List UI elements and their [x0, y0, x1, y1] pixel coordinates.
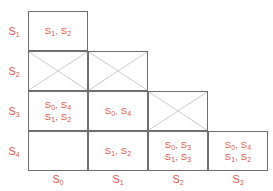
cell-text: S1, S2	[45, 25, 71, 37]
cell-s4-s3: S0, S4S1, S2	[208, 131, 268, 171]
column-label-s2: S2	[148, 174, 208, 185]
cell-s1-s0: S1, S2	[28, 11, 88, 51]
row-label-s3: S3	[2, 106, 26, 117]
row-label-s1-text: S1	[8, 25, 19, 37]
row-label-s1: S1	[2, 26, 26, 37]
cell-s4-s2: S0, S3S1, S3	[148, 131, 208, 171]
row-label-s4: S4	[2, 146, 26, 157]
row-label-s4-text: S4	[8, 145, 19, 157]
staircase-matrix-figure: S1 S2 S3 S4 S0 S1 S2 S3 S1, S2 S0, S4S1,…	[0, 0, 273, 191]
cell-s3-s1: S0, S4	[88, 91, 148, 131]
cell-s2-s1	[88, 51, 148, 91]
cell-s4-s1: S1, S2	[88, 131, 148, 171]
column-label-s3-text: S3	[232, 173, 243, 185]
column-label-s2-text: S2	[172, 173, 183, 185]
cell-text: S0, S4S1, S2	[45, 99, 71, 123]
cell-s2-s0	[28, 51, 88, 91]
cell-text: S0, S4S1, S2	[225, 139, 251, 163]
cell-text: S0, S3S1, S3	[165, 139, 191, 163]
cell-text: S1, S2	[105, 145, 131, 157]
row-label-s2: S2	[2, 66, 26, 77]
row-label-s2-text: S2	[8, 65, 19, 77]
cross-icon	[149, 92, 207, 130]
column-label-s1-text: S1	[112, 173, 123, 185]
cell-s4-s0	[28, 131, 88, 171]
cell-s3-s0: S0, S4S1, S2	[28, 91, 88, 131]
cross-icon	[89, 52, 147, 90]
row-label-s3-text: S3	[8, 105, 19, 117]
column-label-s0: S0	[28, 174, 88, 185]
cross-icon	[29, 52, 87, 90]
column-label-s0-text: S0	[52, 173, 63, 185]
column-label-s1: S1	[88, 174, 148, 185]
column-label-s3: S3	[208, 174, 268, 185]
cell-s3-s2	[148, 91, 208, 131]
cell-text: S0, S4	[105, 105, 131, 117]
